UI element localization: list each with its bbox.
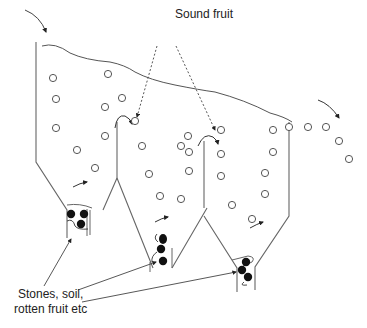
tank-2-outline — [117, 178, 207, 268]
diagram-canvas: Sound fruit Stones, soil, rotten fruit e… — [0, 0, 367, 328]
debris-group — [67, 210, 252, 281]
sound-fruit-group — [49, 70, 352, 222]
debris-label-line-1: Stones, soil, — [14, 287, 87, 302]
outflow-arrow-icon — [318, 100, 339, 118]
swirl-arrow-1-icon — [73, 182, 87, 187]
sound-fruit-label: Sound fruit — [175, 7, 233, 22]
inflow-arrow-icon — [25, 10, 46, 32]
flotation-washer-diagram — [0, 0, 367, 328]
swirl-arrow-2-icon — [155, 217, 168, 222]
sound-fruit-pointer-2 — [176, 46, 215, 130]
tank-1-trap — [67, 204, 92, 235]
debris-pointer-3 — [82, 272, 236, 302]
overflow-arrow-2-icon — [198, 136, 218, 146]
debris-pointer-2 — [78, 262, 156, 290]
debris-label: Stones, soil, rotten fruit etc — [14, 287, 87, 317]
water-surface-line — [42, 45, 292, 122]
sound-fruit-pointer-1 — [137, 46, 157, 117]
overflow-arrow-1-icon — [115, 116, 132, 128]
debris-pointer-1 — [44, 239, 71, 286]
tank-3-outline — [204, 122, 289, 292]
debris-label-line-2: rotten fruit etc — [14, 302, 87, 317]
